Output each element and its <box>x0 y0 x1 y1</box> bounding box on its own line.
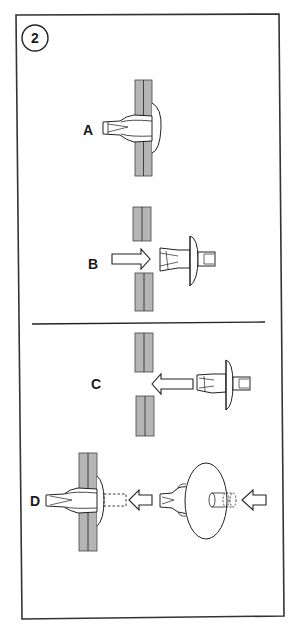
clip-head-disc <box>185 463 227 539</box>
arrow-left-icon <box>242 490 266 510</box>
arrow-left-icon <box>152 374 193 394</box>
step-label-b: B <box>88 256 98 272</box>
step-number: 2 <box>31 30 39 46</box>
arrow-right-icon <box>112 249 150 269</box>
step-label-d: D <box>30 493 40 509</box>
step-number-badge: 2 <box>22 25 48 51</box>
step-label-a: A <box>83 122 93 138</box>
arrow-left-icon <box>129 490 152 510</box>
step-d-illustration: D <box>30 453 266 551</box>
section-divider <box>32 322 265 324</box>
retainer-clip-diagram: 2 A B <box>0 0 291 630</box>
step-a-illustration: A <box>83 80 161 176</box>
step-label-c: C <box>91 376 101 392</box>
step-c-illustration: C <box>91 333 250 436</box>
pin-dashed <box>104 494 126 506</box>
step-b-illustration: B <box>88 207 215 311</box>
